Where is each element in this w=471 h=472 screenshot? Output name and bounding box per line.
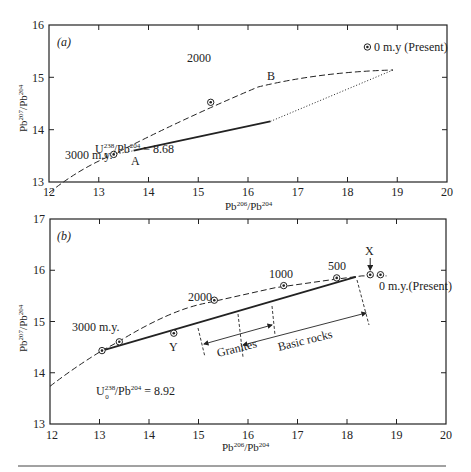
x-tick: 14 <box>143 428 155 442</box>
label-1000: 1000 <box>269 267 293 281</box>
y-axis-label: Pb207/Pb204 <box>17 84 29 132</box>
panel-label: (a) <box>57 35 71 49</box>
x-tick-labels: 12 13 14 15 16 17 18 19 20 <box>46 428 452 442</box>
x-tick: 15 <box>192 185 204 199</box>
x-tick: 12 <box>43 185 55 199</box>
label-3000-my: 3000 m.y. <box>72 320 120 334</box>
label-present: 0 m.y (Present) <box>374 40 448 54</box>
x-tick: 14 <box>143 185 155 199</box>
y-tick-17: 17 <box>33 212 45 226</box>
dotted-extension-right <box>270 70 393 121</box>
u-pb-annotation: U2380/Pb204 = 8.92 <box>96 384 175 401</box>
x-tick: 20 <box>440 428 452 442</box>
x-tick: 12 <box>46 428 58 442</box>
basic-rocks-label: Basic rocks <box>276 327 334 354</box>
x-tick: 13 <box>93 185 105 199</box>
granites-label: Granites <box>215 336 258 359</box>
x-tick: 19 <box>391 428 403 442</box>
x-axis-label: Pb206/Pb204 <box>222 441 270 453</box>
x-axis-label: Pb206/Pb204 <box>225 200 273 212</box>
y-tick-16: 16 <box>33 263 45 277</box>
y-tick-13: 13 <box>33 417 45 431</box>
y-tick-16: 16 <box>32 18 44 32</box>
y-tick-15: 15 <box>33 315 45 329</box>
label-y: Y <box>169 340 178 354</box>
x-tick: 16 <box>242 428 254 442</box>
x-tick-labels: 12 13 14 15 16 17 18 19 20 <box>43 185 453 199</box>
x-tick: 17 <box>292 428 304 442</box>
x-tick: 18 <box>341 428 353 442</box>
y-axis-label: Pb207/Pb204 <box>17 304 29 352</box>
granites-range: Granites <box>198 306 275 360</box>
x-tick: 17 <box>292 185 304 199</box>
label-present: 0 m.y.(Present) <box>379 279 452 293</box>
label-b: B <box>267 69 275 83</box>
x-tick: 19 <box>391 185 403 199</box>
panel-a: 16 15 14 13 12 13 14 15 16 17 18 19 20 P… <box>17 18 453 212</box>
x-tick: 16 <box>242 185 254 199</box>
data-points <box>111 44 371 158</box>
label-2000: 2000 <box>188 290 212 304</box>
label-x: X <box>365 244 374 258</box>
y-tick-14: 14 <box>32 123 44 137</box>
x-tick: 13 <box>94 428 106 442</box>
x-tick: 15 <box>193 428 205 442</box>
y-tick-15: 15 <box>32 71 44 85</box>
panel-b: 17 16 15 14 13 12 13 14 15 16 17 18 19 2… <box>17 212 452 453</box>
x-tick: 20 <box>441 185 453 199</box>
label-a: A <box>131 154 140 168</box>
panel-label: (b) <box>57 229 71 243</box>
figure: 16 15 14 13 12 13 14 15 16 17 18 19 20 P… <box>0 0 471 472</box>
y-tick-14: 14 <box>33 366 45 380</box>
x-tick: 18 <box>342 185 354 199</box>
label-2000: 2000 <box>187 51 211 65</box>
label-500: 500 <box>328 259 346 273</box>
